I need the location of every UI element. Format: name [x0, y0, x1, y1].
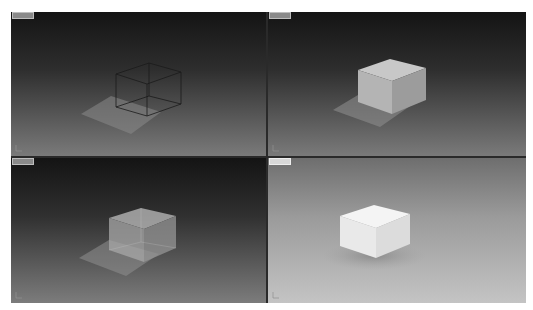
viewport-bottom-right-rendered[interactable] [268, 158, 526, 303]
viewport-label-tab[interactable] [269, 158, 291, 165]
axis-gizmo-icon [272, 291, 280, 299]
axis-gizmo-icon [272, 144, 280, 152]
rendered-box-scene [268, 158, 526, 303]
viewport-grid [11, 12, 526, 303]
viewport-bottom-left-xray[interactable] [11, 158, 266, 303]
viewport-label-tab[interactable] [12, 158, 34, 165]
wireframe-box-scene [11, 12, 266, 156]
axis-gizmo-icon [15, 291, 23, 299]
viewport-label-tab[interactable] [269, 12, 291, 19]
xray-box-scene [11, 158, 266, 303]
axis-gizmo-icon [15, 144, 23, 152]
viewport-top-left-wireframe[interactable] [11, 12, 266, 156]
viewport-top-right-shaded[interactable] [268, 12, 526, 156]
viewport-label-tab[interactable] [12, 12, 34, 19]
shaded-box-scene [268, 12, 526, 156]
